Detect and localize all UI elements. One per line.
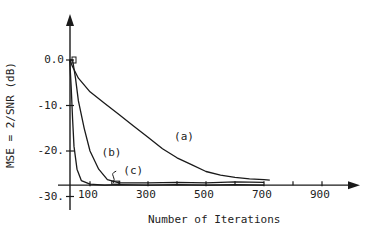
y-axis-arrow-icon [66, 14, 74, 26]
y-tick-label: -30. [22, 190, 64, 203]
y-tick-label: 0.0 [22, 53, 64, 66]
series-annotation: (c) [123, 164, 143, 177]
chart-container: MSE = 2/SNR (dB) Number of Iterations 0.… [0, 0, 376, 232]
y-tick-label: -20. [22, 144, 64, 157]
series-annotation: (b) [102, 146, 122, 159]
series-annotation: (a) [174, 130, 194, 143]
x-tick-label: 900 [310, 188, 330, 201]
series-line-a [70, 60, 270, 180]
x-tick-label: 700 [252, 188, 272, 201]
y-axis-label: MSE = 2/SNR (dB) [4, 62, 17, 168]
x-axis-label: Number of Iterations [148, 213, 280, 226]
series-line-c [70, 60, 264, 185]
x-tick-label: 500 [194, 188, 214, 201]
x-tick-label: 300 [136, 188, 156, 201]
y-tick-label: -10. [22, 99, 64, 112]
series-line-b [70, 60, 264, 183]
x-axis-arrow-icon [348, 181, 360, 189]
x-tick-label: 100 [78, 188, 98, 201]
